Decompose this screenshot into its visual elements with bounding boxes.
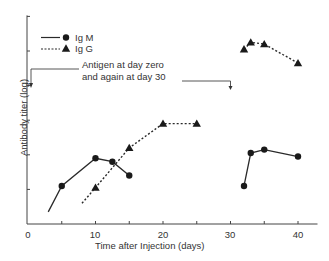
igg-marker: [125, 144, 133, 151]
annotation-line-1: Antigen at day zero: [82, 59, 165, 71]
legend-marker-igm-icon: [63, 34, 69, 40]
x-tick-label-20: 20: [158, 229, 169, 240]
igm-marker: [241, 183, 247, 189]
igg-line: [82, 124, 197, 204]
annotation-arrow-day30: [182, 81, 231, 88]
x-tick-label-30: 30: [225, 229, 236, 240]
axes: [27, 15, 318, 224]
annotation-text: Antigen at day zero and again at day 30: [82, 59, 165, 82]
legend-marker-igg-icon: [62, 44, 70, 51]
igm-marker: [261, 146, 267, 152]
y-axis-label: Antibody titer (log): [18, 68, 29, 168]
antibody-response-chart: Antibody titer (log) Time after Injectio…: [0, 0, 329, 261]
annotation-line-2: and again at day 30: [82, 71, 165, 83]
igm-marker: [248, 150, 254, 156]
igm-marker: [126, 172, 132, 178]
legend-symbols: [41, 34, 70, 51]
igg-marker: [247, 38, 255, 45]
plot-area: [0, 0, 329, 261]
legend-label-igg: Ig G: [75, 43, 93, 54]
arrowhead-day30: [229, 86, 233, 90]
x-axis-label: Time after Injection (days): [95, 240, 204, 251]
igm-marker: [295, 153, 301, 159]
x-tick-label-10: 10: [90, 229, 101, 240]
igg-marker: [294, 59, 302, 66]
igm-marker: [92, 155, 98, 161]
annotation-arrow-day0: [31, 69, 79, 86]
legend-label-igm: Ig M: [75, 32, 93, 43]
igm-marker: [59, 183, 65, 189]
x-tick-label-0: 0: [25, 229, 30, 240]
x-tick-label-40: 40: [293, 229, 304, 240]
igm-marker: [109, 159, 115, 165]
